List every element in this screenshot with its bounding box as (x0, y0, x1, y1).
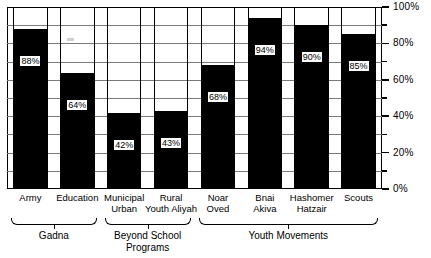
group-label-3: Youth Movements (169, 230, 409, 242)
category-label-3: MunicipalUrban (98, 192, 151, 214)
bar-fill (14, 29, 47, 189)
y-tick-minor-10 (382, 170, 387, 172)
category-label-line2: Hatzair (285, 203, 338, 214)
bracket-stem-3 (288, 225, 289, 229)
category-label-line1: Education (51, 192, 104, 203)
bar-fill (155, 111, 188, 189)
bar-value-label: 43% (160, 137, 182, 149)
bracket-stem-1 (54, 225, 55, 229)
bar-education[interactable]: 64% (60, 7, 95, 189)
y-tick-label: 0% (393, 184, 408, 194)
bar-fill (342, 34, 375, 189)
bar-value-label: 85% (348, 60, 370, 72)
bar-fill (108, 113, 141, 189)
y-tick-100 (382, 6, 389, 8)
category-label-line1: Scouts (332, 192, 385, 203)
y-tick-minor-50 (382, 97, 387, 99)
category-label-line2: Akiva (238, 203, 291, 214)
bar-army[interactable]: 88% (13, 7, 48, 189)
bar-fill (295, 25, 328, 189)
y-tick-minor-90 (382, 24, 387, 26)
bar-value-label: 94% (254, 44, 276, 56)
y-tick-80 (382, 43, 389, 45)
bar-hashomer-hatzair[interactable]: 90% (294, 7, 329, 189)
category-labels: ArmyEducationMunicipalUrbanRuralYouth Al… (7, 192, 382, 218)
group-label-line2: Programs (75, 242, 221, 254)
scan-artifact (67, 38, 74, 41)
y-tick-label: 80% (393, 38, 414, 48)
category-label-line1: Rural (145, 192, 198, 203)
bar-fill (61, 73, 94, 189)
bracket-2 (105, 218, 191, 225)
y-tick-40 (382, 115, 389, 117)
category-label-line1: Municipal (98, 192, 151, 203)
bar-value-label: 42% (113, 139, 135, 151)
category-label-line1: Army (4, 192, 57, 203)
y-tick-20 (382, 152, 389, 154)
group-label-line1: Youth Movements (169, 230, 409, 242)
bracket-1 (11, 218, 97, 225)
y-tick-minor-30 (382, 134, 387, 136)
bar-value-label: 88% (19, 55, 41, 67)
y-tick-0 (382, 188, 389, 190)
y-tick-label: 40% (393, 111, 414, 121)
y-tick-label: 20% (393, 148, 414, 158)
category-label-1: Army (4, 192, 57, 203)
category-label-6: BnaiAkiva (238, 192, 291, 214)
bracket-3 (199, 218, 379, 225)
plot-area: 88%64%42%43%68%94%90%85% (7, 7, 382, 189)
y-axis: 100%80%60%40%20%0% (382, 7, 431, 189)
category-label-7: HashomerHatzair (285, 192, 338, 214)
bar-scouts[interactable]: 85% (341, 7, 376, 189)
bar-value-label: 64% (66, 99, 88, 111)
bar-value-label: 68% (207, 91, 229, 103)
bracket-stem-2 (148, 225, 149, 229)
group-brackets: GadnaBeyond SchoolProgramsYouth Movement… (7, 218, 382, 256)
category-label-line2: Oved (192, 203, 245, 214)
bar-municipal-urban[interactable]: 42% (107, 7, 142, 189)
category-label-2: Education (51, 192, 104, 203)
bar-bnai-akiva[interactable]: 94% (248, 7, 283, 189)
y-tick-label: 100% (393, 2, 419, 12)
bar-chart: 88%64%42%43%68%94%90%85% 100%80%60%40%20… (0, 0, 431, 258)
bar-fill (202, 65, 235, 189)
category-label-line2: Youth Aliyah (145, 203, 198, 214)
category-label-line1: Noar (192, 192, 245, 203)
category-label-line2: Urban (98, 203, 151, 214)
y-tick-60 (382, 79, 389, 81)
category-label-line1: Bnai (238, 192, 291, 203)
y-tick-label: 60% (393, 75, 414, 85)
bars-layer: 88%64%42%43%68%94%90%85% (7, 7, 382, 189)
category-label-5: NoarOved (192, 192, 245, 214)
y-tick-minor-70 (382, 61, 387, 63)
bar-value-label: 90% (301, 51, 323, 63)
category-label-8: Scouts (332, 192, 385, 203)
bar-rural-youth-aliyah[interactable]: 43% (154, 7, 189, 189)
category-label-line1: Hashomer (285, 192, 338, 203)
bar-noar-oved[interactable]: 68% (201, 7, 236, 189)
category-label-4: RuralYouth Aliyah (145, 192, 198, 214)
